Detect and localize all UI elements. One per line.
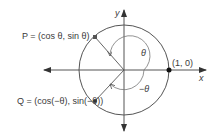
point-q-label: Q = (cos(−θ), sin(−θ)) [17,96,103,106]
unit-circle-diagram: y x (1, 0) P = (cos θ, sin θ) Q = (cos(−… [0,0,218,139]
point-one-zero-label: (1, 0) [172,58,193,68]
y-axis-label: y [114,8,120,18]
point-one-zero-marker [167,68,172,73]
theta-label: θ [141,48,146,58]
radius-to-p [95,37,124,70]
x-axis-label: x [198,73,204,83]
point-p-marker [93,35,97,39]
neg-theta-label: −θ [139,84,149,94]
point-p-label: P = (cos θ, sin θ) [22,31,90,41]
